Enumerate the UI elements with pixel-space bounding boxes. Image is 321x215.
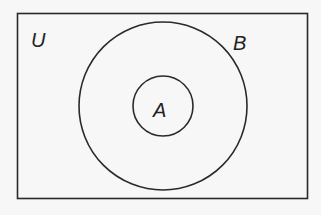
set-a-label: A <box>152 99 166 121</box>
venn-diagram: U B A <box>0 0 321 215</box>
universal-set-label: U <box>31 29 46 51</box>
venn-diagram-svg: U B A <box>0 0 321 215</box>
set-b-label: B <box>233 32 246 54</box>
